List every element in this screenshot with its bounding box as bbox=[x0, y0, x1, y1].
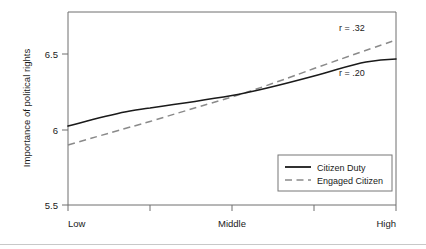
x-tick-label-low: Low bbox=[68, 218, 86, 229]
annotation-r-engaged-citizen: r = .32 bbox=[339, 23, 365, 33]
x-tick-label-high: High bbox=[376, 218, 396, 229]
x-tick-label-middle: Middle bbox=[218, 218, 246, 229]
y-axis-title: Importance of political rights bbox=[21, 49, 32, 168]
line-chart: 6.5 6 5.5 Importance of political rights… bbox=[0, 0, 426, 249]
chart-background bbox=[0, 0, 426, 249]
y-tick-label-6: 6 bbox=[53, 125, 58, 136]
figure-container: 6.5 6 5.5 Importance of political rights… bbox=[0, 0, 426, 249]
annotation-r-citizen-duty: r = .20 bbox=[339, 68, 365, 78]
y-tick-label-6-5: 6.5 bbox=[45, 49, 58, 60]
legend-label-citizen-duty: Citizen Duty bbox=[317, 163, 366, 173]
legend-label-engaged-citizen: Engaged Citizen bbox=[317, 176, 383, 186]
y-tick-label-5-5: 5.5 bbox=[45, 200, 58, 211]
legend-box bbox=[278, 155, 392, 191]
legend: Citizen Duty Engaged Citizen bbox=[278, 155, 392, 191]
